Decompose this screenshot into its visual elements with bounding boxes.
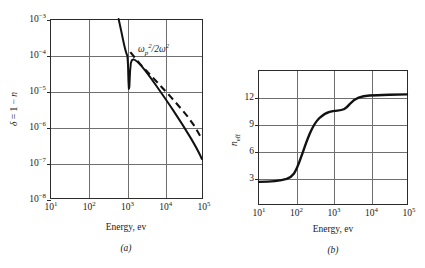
- ytick-label-a-5: 10−8: [29, 195, 46, 205]
- panel-caption-a: (a): [120, 243, 131, 253]
- gridline-h-a-1e-5: [51, 92, 202, 93]
- figure-container: 10−3 10−4 10−5 10−6 10−7 10−8: [0, 0, 425, 268]
- xtick-label-b-4: 105: [403, 209, 416, 219]
- ytick-label-b-3: 12: [245, 93, 255, 103]
- xtick-label-b-3: 104: [365, 209, 378, 219]
- xtick-label-a-4: 105: [198, 203, 211, 213]
- ytick-label-b-0: 3: [249, 174, 254, 184]
- xtick-label-a-0: 101: [45, 203, 58, 213]
- plot-area-a: 10−3 10−4 10−5 10−6 10−7 10−8: [50, 19, 203, 199]
- curve-delta-a: [119, 19, 202, 159]
- gridline-h-b-9: [259, 125, 407, 126]
- ytick-label-a-1: 10−4: [29, 51, 46, 61]
- panel-caption-b: (b): [327, 245, 338, 255]
- gridline-v-a-1e3: [128, 20, 129, 198]
- gridline-h-b-3: [259, 179, 407, 180]
- gridline-h-a-1e-4: [51, 56, 202, 57]
- ytick-label-b-1: 6: [249, 147, 254, 157]
- panel-a: 10−3 10−4 10−5 10−6 10−7 10−8: [0, 0, 220, 268]
- ytick-label-a-3: 10−6: [29, 123, 46, 133]
- x-axis-title-a: Energy, ev: [106, 222, 146, 232]
- annotation-plasma-formula-a: ωp2/2ω2: [138, 44, 169, 54]
- gridline-v-b-1e2: [297, 71, 298, 204]
- xtick-label-a-2: 103: [121, 203, 134, 213]
- gridline-h-b-12: [259, 98, 407, 99]
- gridline-v-b-1e4: [372, 71, 373, 204]
- xtick-label-a-1: 102: [83, 203, 96, 213]
- panel-b: 12 9 6 3 101 102 103: [220, 0, 425, 268]
- xtick-label-a-3: 104: [159, 203, 172, 213]
- gridline-v-b-1e3: [334, 71, 335, 204]
- ytick-label-a-0: 10−3: [29, 15, 46, 25]
- plot-area-b: 12 9 6 3 101 102 103: [258, 70, 408, 205]
- y-axis-title-a: δ = 1 − n: [9, 92, 19, 126]
- ytick-label-b-2: 9: [249, 120, 254, 130]
- xtick-label-b-0: 101: [253, 209, 266, 219]
- curve-neff-b: [259, 94, 407, 181]
- ytick-label-a-4: 10−7: [29, 159, 46, 169]
- curve-layer-a: [51, 20, 202, 198]
- x-axis-title-b: Energy, ev: [313, 224, 353, 234]
- curve-layer-b: [259, 71, 407, 204]
- gridline-h-a-1e-6: [51, 128, 202, 129]
- gridline-h-a-1e-7: [51, 164, 202, 165]
- y-axis-title-b: neff: [229, 134, 239, 146]
- gridline-h-b-6: [259, 152, 407, 153]
- xtick-label-b-2: 103: [328, 209, 341, 219]
- ytick-label-a-2: 10−5: [29, 87, 46, 97]
- xtick-label-b-1: 102: [290, 209, 303, 219]
- gridline-v-a-1e2: [89, 20, 90, 198]
